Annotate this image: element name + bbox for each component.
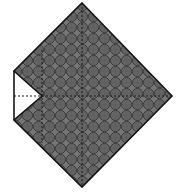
shape-fill-group (14, 3, 172, 187)
notched-diamond-diagram (0, 0, 183, 195)
figure-canvas (0, 0, 183, 195)
shape-fill-mesh (14, 3, 172, 187)
